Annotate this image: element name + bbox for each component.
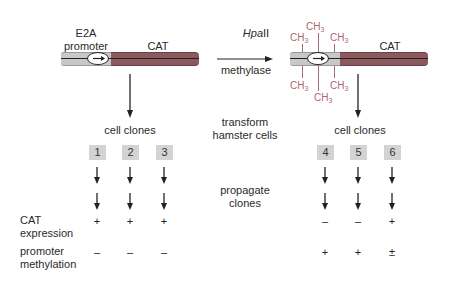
enzyme-name: HpaII bbox=[221, 27, 291, 40]
methyl-group: CH3 bbox=[306, 21, 324, 35]
methyl-group: CH3 bbox=[330, 32, 348, 46]
cat-expression-label: CAT expression bbox=[20, 214, 73, 240]
left-dna-construct bbox=[61, 52, 199, 66]
left-clones-title: cell clones bbox=[90, 124, 170, 137]
methylation-clone-4: + bbox=[319, 247, 331, 258]
cat-expression-line2: expression bbox=[20, 227, 73, 240]
transform-line1: transform bbox=[205, 116, 285, 129]
right-clones-title: cell clones bbox=[320, 124, 400, 137]
down-arrow-icon bbox=[354, 74, 362, 118]
methyl-group: CH3 bbox=[290, 80, 308, 94]
enzyme-name-roman: II bbox=[263, 27, 269, 39]
methylation-line1: promoter bbox=[20, 245, 76, 258]
cat-expression-line1: CAT bbox=[20, 214, 73, 227]
methyl-group: CH3 bbox=[314, 92, 332, 106]
cat-expression-clone-2: + bbox=[124, 216, 136, 227]
dna-strand-line bbox=[61, 58, 199, 59]
cat-segment bbox=[111, 52, 199, 66]
promoter-arrow-icon bbox=[307, 52, 329, 65]
transform-line2: hamster cells bbox=[205, 129, 285, 142]
clone-2: 2 bbox=[122, 145, 139, 160]
promoter-label: E2A promoter bbox=[60, 27, 112, 53]
clone-3: 3 bbox=[156, 145, 173, 160]
cat-expression-clone-1: + bbox=[91, 216, 103, 227]
enzyme-name-italic: Hpa bbox=[243, 27, 263, 39]
methylation-clone-5: + bbox=[352, 247, 364, 258]
clone-6: 6 bbox=[384, 145, 401, 160]
cat-segment bbox=[340, 52, 428, 66]
methylation-clone-6: ± bbox=[386, 247, 398, 258]
promoter-methylation-label: promoter methylation bbox=[20, 245, 76, 271]
propagation-arrows bbox=[0, 165, 453, 215]
clone-5: 5 bbox=[350, 145, 367, 160]
transform-label: transform hamster cells bbox=[205, 116, 285, 142]
methylation-line2: methylation bbox=[20, 258, 76, 271]
methylation-clone-2: – bbox=[124, 247, 136, 258]
cat-expression-clone-6: + bbox=[386, 216, 398, 227]
methylation-clone-1: – bbox=[91, 247, 103, 258]
methylation-clone-3: – bbox=[158, 247, 170, 258]
cat-expression-clone-5: – bbox=[352, 216, 364, 227]
methyl-group: CH3 bbox=[330, 80, 348, 94]
right-arrow-icon bbox=[217, 55, 273, 63]
methylase-label: methylase bbox=[216, 64, 276, 77]
clone-1: 1 bbox=[89, 145, 106, 160]
cat-expression-clone-3: + bbox=[158, 216, 170, 227]
down-arrow-icon bbox=[126, 74, 134, 118]
clone-4: 4 bbox=[317, 145, 334, 160]
right-dna-construct bbox=[290, 52, 428, 66]
methyl-group: CH3 bbox=[290, 32, 308, 46]
promoter-arrow-icon bbox=[87, 52, 109, 65]
promoter-label-line1: E2A bbox=[60, 27, 112, 40]
cat-expression-clone-4: – bbox=[319, 216, 331, 227]
